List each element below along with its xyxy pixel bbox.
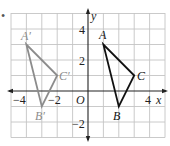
problem-bullet: • [1,9,5,23]
y-tick-label-2: 2 [79,54,85,68]
vertex-label-c: C [137,69,146,83]
y-axis-label: y [90,9,97,23]
vertex-label-b: B [113,109,121,123]
x-tick-label-neg4: −4 [13,93,26,107]
vertex-label-a: A [98,28,107,42]
triangle-a-prime-b-prime-c-prime: A′ B′ C′ [20,29,70,123]
vertex-label-b-prime: B′ [35,109,45,123]
coordinate-plane-diagram: • y x O −4 −2 4 [0,0,170,146]
y-tick-label-4: 4 [79,23,85,37]
y-tick-label-neg2: −2 [72,117,85,131]
vertex-label-a-prime: A′ [20,29,31,43]
x-tick-label-neg2: −2 [48,93,61,107]
x-axis-label: x [155,93,162,107]
origin-label: O [76,93,85,107]
vertex-label-c-prime: C′ [59,69,70,83]
y-axis-down-arrow-icon [86,136,90,142]
y-axis-up-arrow-icon [86,8,90,14]
x-tick-label-4: 4 [145,93,151,107]
